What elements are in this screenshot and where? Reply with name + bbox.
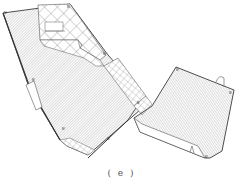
floor-plan-diagram: M M M M M M M M M M (0, 0, 243, 185)
figure-caption: ( e ) (0, 168, 243, 178)
right-block (134, 67, 234, 158)
